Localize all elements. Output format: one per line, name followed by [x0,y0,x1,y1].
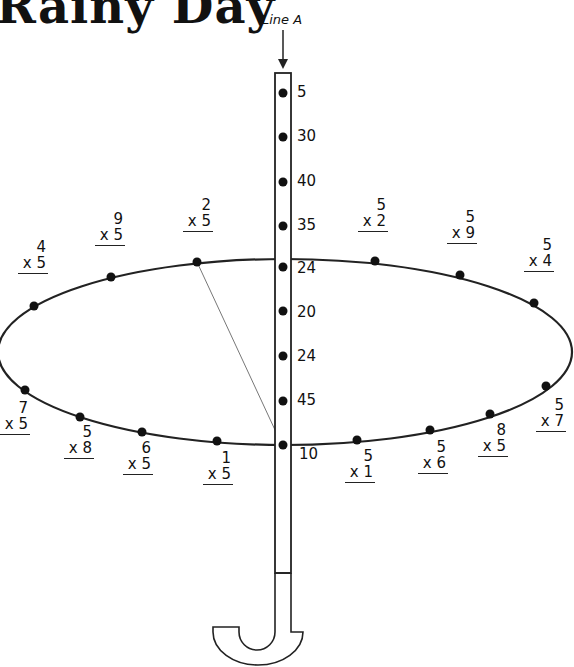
multiplication-problem: 7x 5 [0,401,30,435]
multiplication-problem: 5x 1 [345,449,375,483]
shaft-number: 24 [297,261,316,276]
umbrella-shaft [275,73,291,573]
multiplication-problem: 5x 4 [524,238,554,272]
multiplication-problem: 8x 5 [478,423,508,457]
shaft-number: 45 [297,393,316,408]
multiplication-problem: 5x 2 [358,198,388,232]
multiplication-problem: 6x 5 [123,441,153,475]
shaft-number: 40 [297,174,316,189]
shaft-number: 20 [297,305,316,320]
multiplication-problem: 5x 7 [536,398,566,432]
multiplication-problem: 2x 5 [183,198,213,232]
shaft-number: 24 [297,349,316,364]
umbrella-handle [213,573,303,665]
shaft-number: 35 [297,218,316,233]
shaft-number: 5 [297,85,307,100]
arrow-down-icon [278,30,288,69]
shaft-number: 30 [297,129,316,144]
multiplication-problem: 5x 9 [447,210,477,244]
multiplication-problem: 5x 6 [418,440,448,474]
multiplication-problem: 9x 5 [95,212,125,246]
shaft-number: 10 [299,447,318,462]
multiplication-problem: 1x 5 [203,451,233,485]
answer-line [197,262,282,445]
multiplication-problem: 4x 5 [18,240,48,274]
umbrella-diagram [0,0,574,667]
multiplication-problem: 5x 8 [64,425,94,459]
